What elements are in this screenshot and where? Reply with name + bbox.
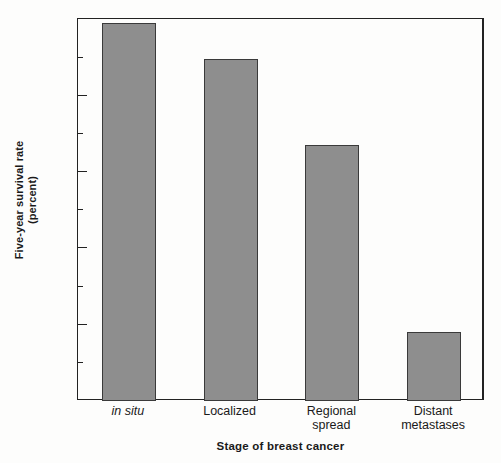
bar — [102, 23, 156, 401]
y-axis-tick-minor — [78, 209, 83, 210]
y-axis-tick-minor — [78, 133, 83, 134]
x-axis-title: Stage of breast cancer — [77, 440, 484, 452]
x-axis-tick-label-line1: Localized — [203, 404, 256, 418]
plot-area — [77, 18, 484, 400]
y-axis-tick-minor — [78, 57, 83, 58]
x-axis-tick-label-line2: metastases — [373, 418, 493, 432]
y-axis-tick-major — [78, 171, 87, 172]
bar — [204, 59, 258, 401]
bar-chart-figure: Five-year survival rate (percent) 100806… — [0, 0, 501, 463]
bar — [305, 145, 359, 401]
y-axis-tick-labels: 100806040200 — [0, 0, 71, 463]
x-axis-tick-labels: in situLocalizedRegionalspreadDistantmet… — [0, 404, 501, 444]
bar — [407, 332, 461, 401]
y-axis-tick-major — [78, 95, 87, 96]
x-axis-tick-label-line1: in situ — [112, 404, 145, 418]
x-axis-tick-label: Distantmetastases — [373, 404, 493, 432]
y-axis-tick-minor — [78, 286, 83, 287]
y-axis-tick-major — [78, 324, 87, 325]
x-axis-tick-label-line1: Regional — [307, 404, 356, 418]
y-axis-tick-minor — [78, 362, 83, 363]
x-axis-tick-label-line1: Distant — [414, 404, 453, 418]
y-axis-tick-major — [78, 247, 87, 248]
